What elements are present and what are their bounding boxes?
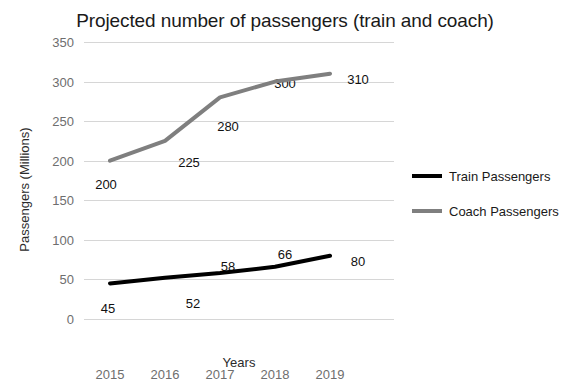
legend-entry[interactable]: Train Passengers	[412, 168, 562, 184]
legend-label: Coach Passengers	[449, 204, 559, 219]
legend-label: Train Passengers	[449, 169, 550, 184]
coach-passengers-line	[110, 74, 330, 161]
legend-entry[interactable]: Coach Passengers	[412, 203, 562, 219]
legend-line-swatch	[412, 174, 442, 178]
line-chart: Projected number of passengers (train an…	[0, 0, 570, 385]
chart-legend: Train PassengersCoach Passengers	[412, 168, 562, 238]
legend-line-swatch	[412, 209, 442, 213]
train-passengers-line	[110, 256, 330, 284]
